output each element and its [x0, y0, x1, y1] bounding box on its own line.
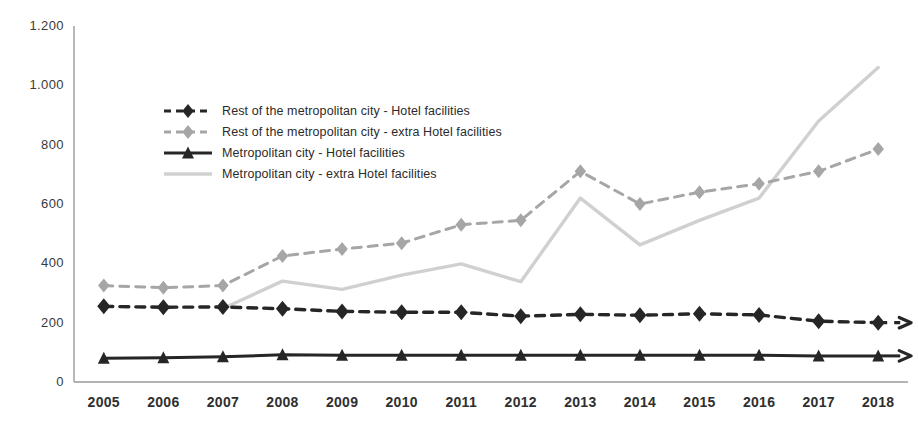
data-point-marker: [216, 299, 229, 315]
data-point-marker: [158, 281, 169, 295]
data-point-marker: [574, 306, 587, 322]
data-point-marker: [872, 142, 883, 156]
data-point-marker: [396, 236, 407, 250]
x-axis-tick-label: 2011: [431, 394, 491, 410]
series-end-arrow-icon: [899, 351, 911, 362]
x-axis-tick-label: 2010: [372, 394, 432, 410]
data-point-marker: [455, 218, 466, 232]
x-axis-tick-label: 2009: [312, 394, 372, 410]
data-point-marker: [753, 307, 766, 323]
x-axis-tick-label: 2012: [491, 394, 551, 410]
legend-item-metro-hotel[interactable]: Metropolitan city - Hotel facilities: [162, 142, 492, 163]
data-point-marker: [182, 104, 193, 118]
legend-item-rest-extra-hotel[interactable]: Rest of the metropolitan city - extra Ho…: [162, 121, 492, 142]
data-point-marker: [813, 164, 824, 178]
y-axis-tick-label: 800: [6, 137, 64, 152]
x-axis-tick-label: 2007: [193, 394, 253, 410]
data-point-marker: [633, 307, 646, 323]
series-metro_hotel: [98, 348, 911, 364]
legend-marker-solid-triangle-dark-icon: [162, 144, 214, 162]
legend-label: Rest of the metropolitan city - Hotel fa…: [222, 104, 470, 118]
data-point-marker: [514, 308, 527, 324]
x-axis-tick-label: 2017: [789, 394, 849, 410]
data-point-marker: [336, 303, 349, 319]
y-axis-tick-label: 400: [6, 255, 64, 270]
data-point-marker: [157, 299, 170, 315]
data-point-marker: [693, 306, 706, 322]
legend-item-rest-hotel[interactable]: Rest of the metropolitan city - Hotel fa…: [162, 100, 492, 121]
data-point-marker: [455, 304, 468, 320]
line-chart: 1.2001.0008006004002000 2005200620072008…: [0, 0, 918, 434]
legend-marker-solid-line-light-icon: [162, 165, 214, 183]
x-axis-tick-label: 2015: [670, 394, 730, 410]
y-axis-tick-label: 200: [6, 315, 64, 330]
data-point-marker: [276, 301, 289, 317]
y-axis-tick-label: 600: [6, 196, 64, 211]
x-axis-tick-label: 2018: [848, 394, 908, 410]
plot-area: [0, 0, 918, 434]
legend-label: Metropolitan city - Hotel facilities: [222, 146, 405, 160]
chart-legend: Rest of the metropolitan city - Hotel fa…: [162, 100, 492, 184]
legend-marker-dashed-diamond-gray-icon: [162, 123, 214, 141]
data-point-marker: [753, 177, 764, 191]
data-point-marker: [395, 304, 408, 320]
series-end-arrow-icon: [899, 317, 911, 328]
y-axis-tick-label: 0: [6, 374, 64, 389]
x-axis-tick-label: 2016: [729, 394, 789, 410]
data-point-marker: [634, 197, 645, 211]
data-point-marker: [694, 185, 705, 199]
data-point-marker: [182, 125, 193, 139]
axis-lines: [74, 26, 908, 382]
legend-marker-dashed-diamond-dark-icon: [162, 102, 214, 120]
x-axis-tick-label: 2014: [610, 394, 670, 410]
data-point-marker: [98, 279, 109, 293]
data-point-marker: [277, 249, 288, 263]
data-point-marker: [97, 298, 110, 314]
y-axis-tick-label: 1.200: [6, 18, 64, 33]
y-axis-tick-label: 1.000: [6, 77, 64, 92]
x-axis-tick-label: 2006: [133, 394, 193, 410]
data-point-marker: [812, 313, 825, 329]
legend-item-metro-extra-hotel[interactable]: Metropolitan city - extra Hotel faciliti…: [162, 163, 492, 184]
data-point-marker: [217, 279, 228, 293]
series-rest_hotel: [97, 298, 911, 330]
data-point-marker: [336, 242, 347, 256]
x-axis-tick-label: 2005: [74, 394, 134, 410]
legend-label: Rest of the metropolitan city - extra Ho…: [222, 125, 502, 139]
legend-label: Metropolitan city - extra Hotel faciliti…: [222, 167, 437, 181]
x-axis-tick-label: 2008: [253, 394, 313, 410]
x-axis-tick-label: 2013: [550, 394, 610, 410]
